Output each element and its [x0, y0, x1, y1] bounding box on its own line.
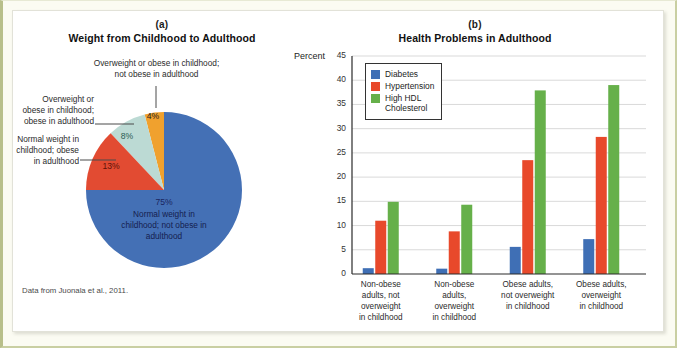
legend-item: High HDL Cholesterol — [371, 93, 434, 115]
y-tick-label: 20 — [326, 171, 346, 181]
y-tick-label: 30 — [326, 123, 346, 133]
callout-overweight-not-obese: Overweight or obese in childhood; not ob… — [64, 58, 249, 80]
y-tick-label: 45 — [326, 50, 346, 60]
figure-root: (a) Weight from Childhood to Adulthood O… — [0, 0, 677, 348]
x-axis-category-label: Non-obese adults, overweight in childhoo… — [412, 280, 496, 324]
y-tick-label: 0 — [326, 268, 346, 278]
bar — [596, 137, 607, 274]
callout-overweight-obese: Overweight or obese in childhood; obese … — [6, 94, 94, 127]
legend-swatch-icon — [371, 82, 380, 91]
x-axis-category-label: Obese adults, not overweight in childhoo… — [486, 280, 570, 313]
pie-label-13-percent: 13% — [95, 161, 127, 171]
pie-label-8-percent: 8% — [112, 131, 142, 141]
bar — [535, 90, 546, 274]
bar — [436, 269, 447, 274]
legend-label: Diabetes — [385, 69, 418, 80]
y-tick-label: 25 — [326, 147, 346, 157]
legend-swatch-icon — [371, 70, 380, 79]
y-tick-label: 35 — [326, 98, 346, 108]
x-axis-category-label: Obese adults, overweight in childhood — [559, 280, 643, 313]
panel-b-bar-chart: (b) Health Problems in Adulthood Percent… — [290, 10, 664, 332]
bar — [363, 268, 374, 274]
source-note: Data from Juonala et al., 2011. — [22, 286, 128, 295]
x-axis-category-label: Non-obese adults, not overweight in chil… — [339, 280, 423, 324]
legend-item: Hypertension — [371, 81, 434, 92]
chart-legend: DiabetesHypertensionHigh HDL Cholesterol — [365, 63, 442, 120]
y-tick-label: 40 — [326, 74, 346, 84]
bar — [449, 231, 460, 274]
y-tick-label: 5 — [326, 244, 346, 254]
legend-label: High HDL Cholesterol — [385, 93, 427, 115]
y-tick-label: 10 — [326, 220, 346, 230]
bar — [461, 205, 472, 274]
panel-a-pie-chart: (a) Weight from Childhood to Adulthood O… — [12, 10, 312, 332]
bar — [510, 247, 521, 274]
y-tick-label: 15 — [326, 195, 346, 205]
bar — [375, 221, 386, 274]
pie-label-75-percent: 75% — [137, 197, 191, 207]
bar — [522, 160, 533, 274]
legend-label: Hypertension — [385, 81, 434, 92]
bar — [388, 202, 399, 274]
legend-swatch-icon — [371, 94, 380, 103]
legend-item: Diabetes — [371, 69, 434, 80]
bar — [608, 85, 619, 274]
bar — [583, 239, 594, 274]
pie-label-4-percent: 4% — [138, 111, 168, 121]
callout-normal-obese: Normal weight in childhood; obese in adu… — [4, 134, 79, 167]
pie-label-75-description: Normal weight in childhood; not obese in… — [89, 209, 239, 242]
